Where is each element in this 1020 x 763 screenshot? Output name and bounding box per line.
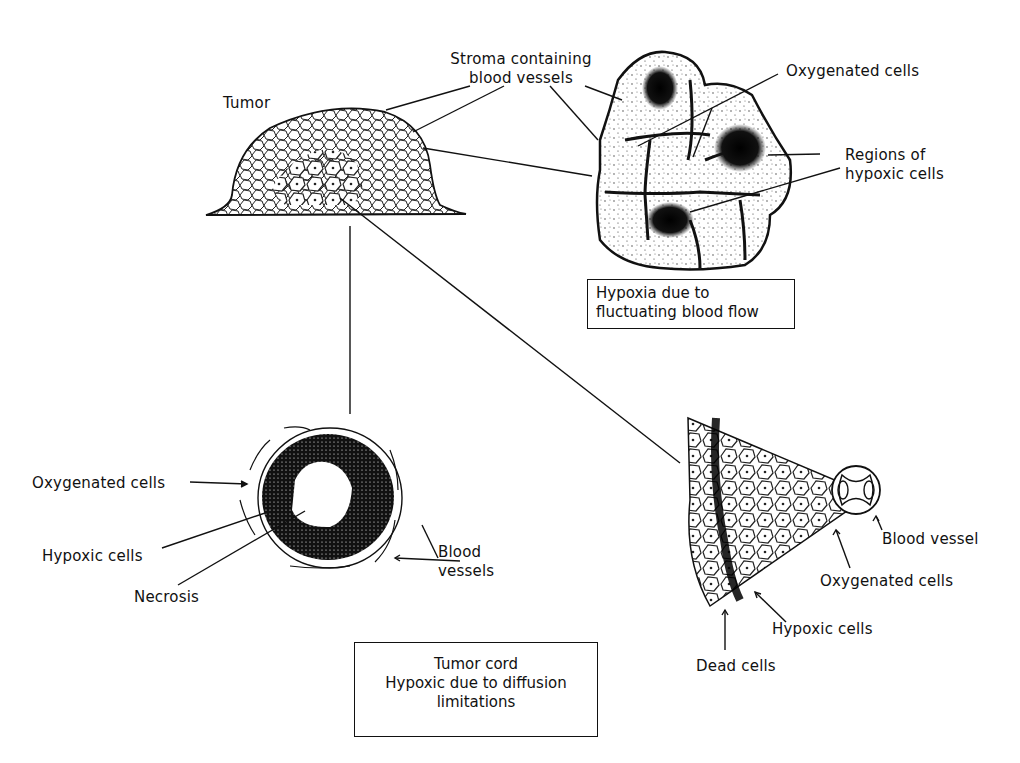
hypoxic-regions-line1: Regions of xyxy=(845,146,944,165)
blood-vessels-line1: Blood xyxy=(438,543,494,562)
cord-cross-section-illustration xyxy=(240,427,402,568)
cross-section-oxygenated-label: Oxygenated cells xyxy=(32,474,165,493)
hypoxic-regions-line2: hypoxic cells xyxy=(845,165,944,184)
stroma-label: Stroma containing blood vessels xyxy=(441,50,601,88)
fluctuating-caption-line2: fluctuating blood flow xyxy=(596,303,786,322)
stroma-label-line2: blood vessels xyxy=(441,69,601,88)
fluctuating-flow-caption: Hypoxia due to fluctuating blood flow xyxy=(587,279,795,329)
wedge-oxygenated-label: Oxygenated cells xyxy=(820,572,953,591)
fluctuating-flow-illustration xyxy=(597,52,791,270)
cord-caption-line1: Tumor cord xyxy=(363,655,589,674)
cord-caption-line3: limitations xyxy=(363,693,589,712)
fluctuating-caption-line1: Hypoxia due to xyxy=(596,284,786,303)
hypoxic-regions-label: Regions of hypoxic cells xyxy=(845,146,944,184)
cord-caption-line2: Hypoxic due to diffusion xyxy=(363,674,589,693)
stroma-label-line1: Stroma containing xyxy=(441,50,601,69)
wedge-hypoxic-label: Hypoxic cells xyxy=(772,620,873,639)
blood-vessels-label: Blood vessels xyxy=(438,543,494,581)
wedge-blood-vessel-label: Blood vessel xyxy=(882,530,979,549)
blood-vessels-line2: vessels xyxy=(438,562,494,581)
fluctuating-oxygenated-label: Oxygenated cells xyxy=(786,62,919,81)
tumor-cord-caption: Tumor cord Hypoxic due to diffusion limi… xyxy=(354,642,598,737)
necrosis-label: Necrosis xyxy=(134,588,199,607)
tumor-label: Tumor xyxy=(223,94,270,113)
cross-section-hypoxic-label: Hypoxic cells xyxy=(42,547,143,566)
wedge-dead-cells-label: Dead cells xyxy=(696,657,776,676)
